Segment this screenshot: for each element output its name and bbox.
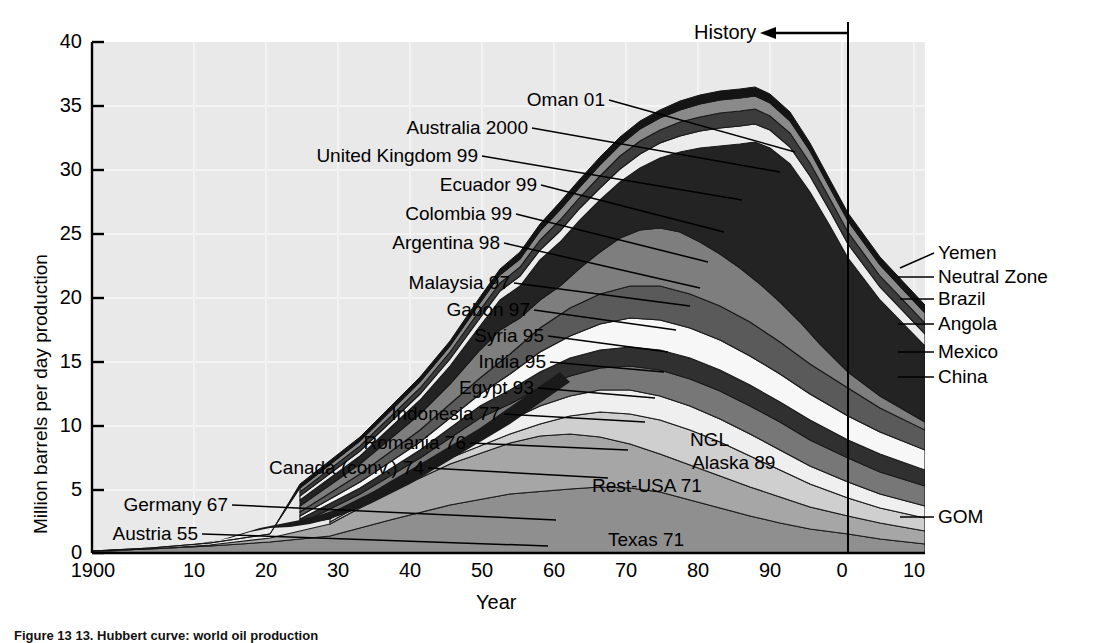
callout-label-malaysia-97: Malaysia 97 xyxy=(0,273,510,292)
x-tick-label: 10 xyxy=(883,560,945,580)
x-tick-label: 80 xyxy=(667,560,729,580)
callout-label-australia-2000: Australia 2000 xyxy=(0,118,528,137)
area-label-texas-71: Texas 71 xyxy=(608,530,684,549)
callout-label-romania-76: Romania 76 xyxy=(0,433,466,452)
area-label-rest-usa-71: Rest-USA 71 xyxy=(592,476,702,495)
callout-label-canada-conv-74: Canada (conv.) 74 xyxy=(0,458,424,477)
area-label-ngl: NGL xyxy=(690,430,729,449)
callout-label-colombia-99: Colombia 99 xyxy=(0,204,512,223)
x-tick-label: 70 xyxy=(595,560,657,580)
callout-label-indonesia-77: Indonesia 77 xyxy=(0,404,500,423)
callout-label-neutral-zone: Neutral Zone xyxy=(938,267,1048,286)
callout-label-oman-01: Oman 01 xyxy=(0,90,605,109)
callout-label-argentina-98: Argentina 98 xyxy=(0,233,500,252)
x-tick-label: 10 xyxy=(163,560,225,580)
x-tick-label: 90 xyxy=(739,560,801,580)
callout-label-yemen: Yemen xyxy=(938,243,996,262)
history-annotation-label: History xyxy=(694,22,756,42)
callout-label-egypt-93: Egypt 93 xyxy=(0,378,534,397)
x-tick-label: 0 xyxy=(811,560,873,580)
callout-label-gom: GOM xyxy=(938,507,983,526)
x-tick-label: 1900 xyxy=(62,560,124,580)
callout-label-gabon-97: Gabon 97 xyxy=(0,300,530,319)
callout-label-mexico: Mexico xyxy=(938,342,998,361)
area-label-alaska-89: Alaska 89 xyxy=(692,453,775,472)
callout-label-brazil: Brazil xyxy=(938,289,986,308)
x-tick-label: 20 xyxy=(235,560,297,580)
x-tick-label: 50 xyxy=(451,560,513,580)
callout-label-syria-95: Syria 95 xyxy=(0,326,544,345)
callout-label-ecuador-99: Ecuador 99 xyxy=(0,175,537,194)
x-tick-label: 40 xyxy=(379,560,441,580)
figure-caption: Figure 13 13. Hubbert curve: world oil p… xyxy=(14,628,318,643)
x-tick-label: 30 xyxy=(307,560,369,580)
callout-label-united-kingdom-99: United Kingdom 99 xyxy=(0,146,478,165)
callout-label-angola: Angola xyxy=(938,314,997,333)
figure-container: Million barrels per day production 40 35… xyxy=(0,0,1097,643)
callout-label-china: China xyxy=(938,367,988,386)
callout-label-germany-67: Germany 67 xyxy=(0,495,228,514)
callout-label-india-95: India 95 xyxy=(0,352,546,371)
callout-label-austria-55: Austria 55 xyxy=(0,524,198,543)
y-tick-label: 40 xyxy=(34,31,82,51)
x-tick-label: 60 xyxy=(523,560,585,580)
history-arrow-icon xyxy=(760,27,848,39)
x-axis-title: Year xyxy=(476,592,516,612)
